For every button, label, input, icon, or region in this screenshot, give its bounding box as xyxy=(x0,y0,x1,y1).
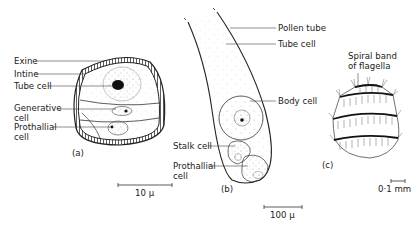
label-exine: Exine xyxy=(14,56,38,66)
generative-cell xyxy=(112,107,132,116)
scale-bar-b-label: 100 μ xyxy=(270,210,295,220)
prothallial-cell-a xyxy=(108,121,128,135)
caption-c: (c) xyxy=(322,160,333,170)
scale-bar-a-label: 10 μ xyxy=(135,188,154,198)
label-spiral-band-line2: of flagella xyxy=(348,61,390,71)
label-prothallial-cell-b-line1: Prothallial xyxy=(173,161,216,171)
label-body-cell: Body cell xyxy=(278,96,317,106)
scale-bar-c-label: 0·1 mm xyxy=(378,184,411,194)
label-tube-cell-a: Tube cell xyxy=(14,81,52,91)
label-tube-cell-b: Tube cell xyxy=(278,39,316,49)
caption-a: (a) xyxy=(72,148,84,158)
label-prothallial-cell-b-line2: cell xyxy=(173,171,188,181)
label-pollen-tube: Pollen tube xyxy=(278,23,326,33)
label-stalk-cell: Stalk cell xyxy=(173,141,212,151)
label-generative-cell-line1: Generative xyxy=(14,103,62,113)
caption-b: (b) xyxy=(221,184,233,194)
label-intine: Intine xyxy=(14,69,38,79)
sperm-c xyxy=(329,73,405,183)
label-prothallial-cell-a-line2: cell xyxy=(14,132,29,142)
label-prothallial-cell-a-line1: Prothallial xyxy=(14,122,57,132)
label-spiral-band-line1: Spiral band xyxy=(348,51,397,61)
diagram-drawing xyxy=(0,0,420,231)
